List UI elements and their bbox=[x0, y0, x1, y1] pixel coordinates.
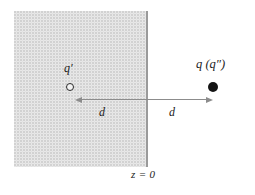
boundary-plane-line bbox=[146, 11, 148, 167]
shaded-halfspace-region bbox=[14, 11, 147, 167]
source-charge-marker bbox=[208, 82, 218, 92]
distance-right-label: d bbox=[169, 106, 175, 118]
arrowhead-right-icon bbox=[206, 97, 213, 103]
arrow-line bbox=[146, 99, 206, 100]
distance-left-label: d bbox=[99, 106, 105, 118]
arrow-line bbox=[82, 99, 148, 100]
image-charge-label: q′ bbox=[64, 62, 73, 74]
distance-arrow-left bbox=[75, 95, 148, 104]
source-charge-label: q (q″) bbox=[196, 58, 225, 71]
arrowhead-left-icon bbox=[75, 97, 82, 103]
image-charge-diagram: q′ q (q″) d d z = 0 bbox=[0, 0, 255, 195]
plane-label: z = 0 bbox=[131, 169, 155, 180]
image-charge-marker bbox=[66, 83, 74, 91]
distance-arrow-right bbox=[146, 95, 213, 104]
